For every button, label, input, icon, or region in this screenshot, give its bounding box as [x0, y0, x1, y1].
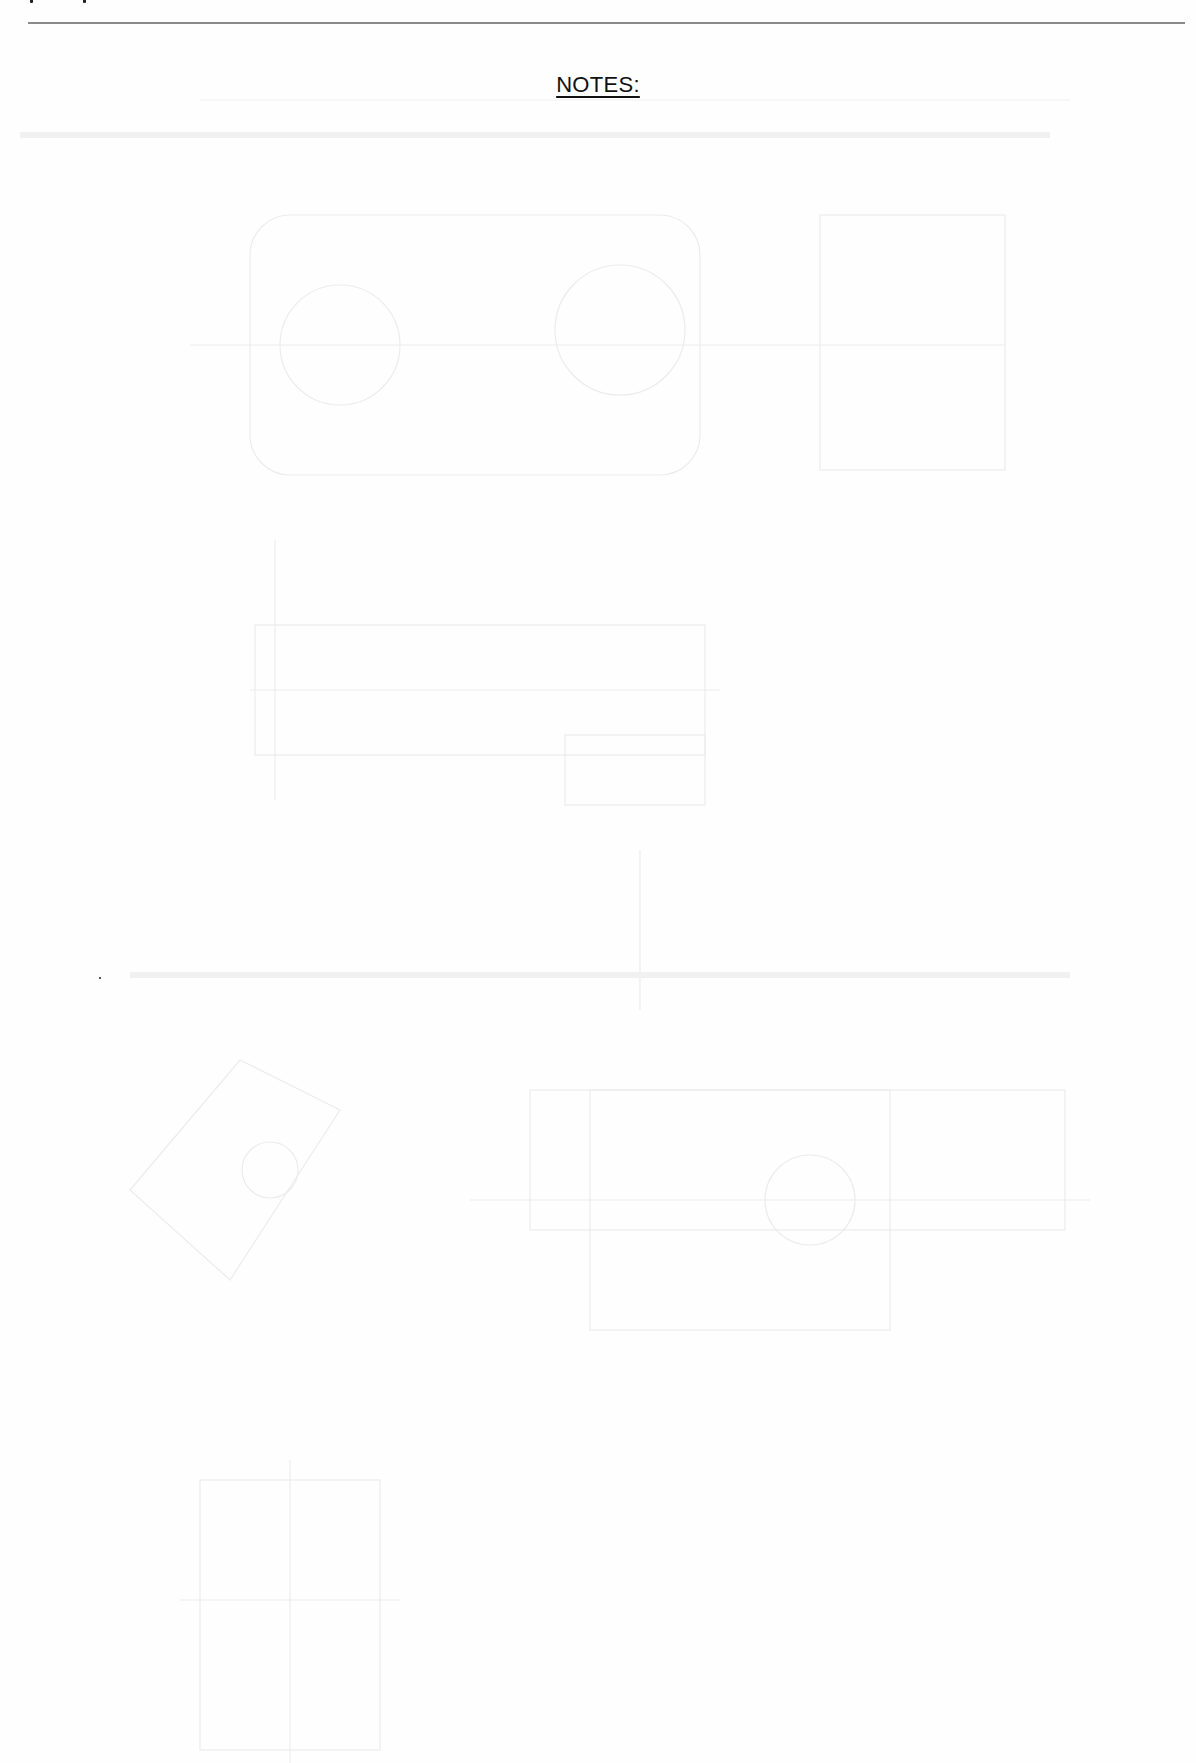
- header-rule: [28, 22, 1185, 24]
- document-page: NOTES:: [0, 0, 1196, 1763]
- reverse-side-bleed-through: [0, 0, 1196, 1763]
- scan-speck: [99, 977, 101, 979]
- cut-off-text-mark: [83, 0, 86, 3]
- cut-off-text-mark: [30, 0, 33, 3]
- bleed-drawings: [0, 0, 1196, 1763]
- notes-heading: NOTES:: [0, 71, 1196, 99]
